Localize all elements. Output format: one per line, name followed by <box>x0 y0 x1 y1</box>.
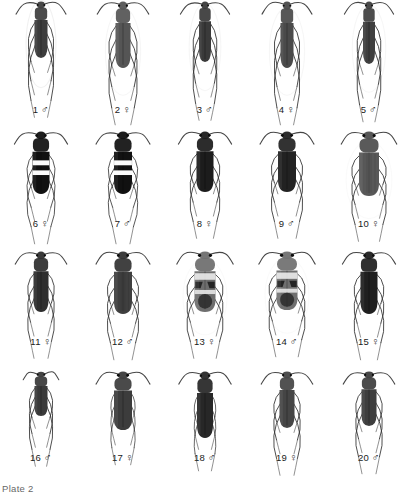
specimen-caption: 4♀ <box>279 104 295 115</box>
specimen-cell: 11♀ <box>0 246 82 347</box>
specimen-figure-16 <box>21 366 61 452</box>
specimen-number: 10 <box>358 218 369 229</box>
specimen-caption: 18♂ <box>194 452 216 463</box>
specimen-figure-12 <box>99 246 147 336</box>
specimen-caption: 8♀ <box>197 218 213 229</box>
specimen-cell: 12♂ <box>82 246 164 347</box>
specimen-cell: 10♀ <box>328 126 410 229</box>
specimen-caption: 20♂ <box>358 452 380 463</box>
sex-symbol-icon: ♂ <box>41 451 52 463</box>
specimen-cell: 14♂ <box>246 246 328 347</box>
specimen-number: 14 <box>276 336 287 347</box>
beetle-illustration <box>350 0 388 104</box>
specimen-caption: 11♀ <box>30 336 51 347</box>
beetle-illustration <box>265 366 309 452</box>
specimen-caption: 15♀ <box>358 336 380 347</box>
specimen-figure-20 <box>347 366 391 452</box>
specimen-cell: 8♀ <box>164 126 246 229</box>
beetle-illustration <box>19 246 63 336</box>
specimen-figure-18 <box>183 366 227 452</box>
specimen-row: 11♀12♂13♀14♂15♀ <box>0 246 410 347</box>
beetle-illustration <box>103 0 143 104</box>
specimen-caption: 6♀ <box>33 218 49 229</box>
specimen-caption: 13♀ <box>194 336 216 347</box>
sex-symbol-icon: ♀ <box>287 451 298 463</box>
sex-symbol-icon: ♂ <box>366 103 377 115</box>
beetle-illustration <box>181 126 229 218</box>
beetle-illustration <box>262 126 312 218</box>
specimen-figure-10 <box>343 126 395 218</box>
beetle-illustration <box>187 0 223 104</box>
specimen-caption: 7♂ <box>115 218 131 229</box>
beetle-illustration <box>99 246 147 336</box>
specimen-number: 19 <box>276 452 287 463</box>
specimen-number: 13 <box>194 336 205 347</box>
specimen-cell: 17♀ <box>82 366 164 463</box>
beetle-illustration <box>180 246 230 336</box>
specimen-cell: 19♀ <box>246 366 328 463</box>
specimen-figure-6 <box>18 126 64 218</box>
specimen-figure-3 <box>187 0 223 104</box>
sex-symbol-icon: ♂ <box>284 217 295 229</box>
sex-symbol-icon: ♀ <box>202 217 213 229</box>
specimen-cell: 7♂ <box>82 126 164 229</box>
specimen-number: 15 <box>358 336 369 347</box>
sex-symbol-icon: ♀ <box>120 103 131 115</box>
specimen-row: 16♂17♀18♂19♀20♂ <box>0 366 410 463</box>
specimen-caption: 3♂ <box>197 104 213 115</box>
beetle-illustration <box>18 126 64 218</box>
specimen-figure-4 <box>267 0 307 104</box>
specimen-caption: 1♂ <box>33 104 49 115</box>
specimen-cell: 1♂ <box>0 0 82 115</box>
specimen-row: 6♀7♂8♀9♂10♀ <box>0 126 410 229</box>
specimen-figure-17 <box>101 366 145 452</box>
specimen-cell: 4♀ <box>246 0 328 115</box>
specimen-figure-7 <box>99 126 147 218</box>
beetle-illustration <box>262 246 312 336</box>
sex-symbol-icon: ♂ <box>287 335 298 347</box>
sex-symbol-icon: ♂ <box>202 103 213 115</box>
specimen-cell: 13♀ <box>164 246 246 347</box>
sex-symbol-icon: ♀ <box>205 335 216 347</box>
specimen-figure-14 <box>262 246 312 336</box>
specimen-caption: 5♂ <box>361 104 377 115</box>
specimen-cell: 15♀ <box>328 246 410 347</box>
specimen-figure-8 <box>181 126 229 218</box>
specimen-cell: 6♀ <box>0 126 82 229</box>
specimen-plate: 1♂2♀3♂4♀5♂6♀7♂8♀9♂10♀11♀12♂13♀14♂15♀16♂1… <box>0 0 410 492</box>
specimen-figure-19 <box>265 366 309 452</box>
specimen-number: 16 <box>30 452 41 463</box>
specimen-figure-5 <box>350 0 388 104</box>
sex-symbol-icon: ♂ <box>38 103 49 115</box>
specimen-cell: 18♂ <box>164 366 246 463</box>
specimen-figure-9 <box>262 126 312 218</box>
beetle-illustration <box>21 366 61 452</box>
specimen-figure-13 <box>180 246 230 336</box>
sex-symbol-icon: ♀ <box>369 335 380 347</box>
specimen-caption: 9♂ <box>279 218 295 229</box>
specimen-caption: 10♀ <box>358 218 380 229</box>
specimen-cell: 9♂ <box>246 126 328 229</box>
beetle-illustration <box>24 0 58 104</box>
specimen-caption: 19♀ <box>276 452 298 463</box>
beetle-illustration <box>183 366 227 452</box>
specimen-caption: 17♀ <box>112 452 134 463</box>
specimen-row: 1♂2♀3♂4♀5♂ <box>0 0 410 115</box>
beetle-illustration <box>99 126 147 218</box>
beetle-illustration <box>267 0 307 104</box>
beetle-illustration <box>346 246 392 336</box>
specimen-cell: 16♂ <box>0 366 82 463</box>
sex-symbol-icon: ♀ <box>41 335 52 347</box>
specimen-caption: 14♂ <box>276 336 298 347</box>
specimen-cell: 20♂ <box>328 366 410 463</box>
beetle-illustration <box>101 366 145 452</box>
specimen-caption: 12♂ <box>112 336 134 347</box>
specimen-cell: 2♀ <box>82 0 164 115</box>
specimen-number: 11 <box>30 336 41 347</box>
specimen-caption: 2♀ <box>115 104 131 115</box>
beetle-illustration <box>347 366 391 452</box>
sex-symbol-icon: ♀ <box>284 103 295 115</box>
plate-label: Plate 2 <box>2 483 34 492</box>
sex-symbol-icon: ♂ <box>120 217 131 229</box>
specimen-figure-2 <box>103 0 143 104</box>
